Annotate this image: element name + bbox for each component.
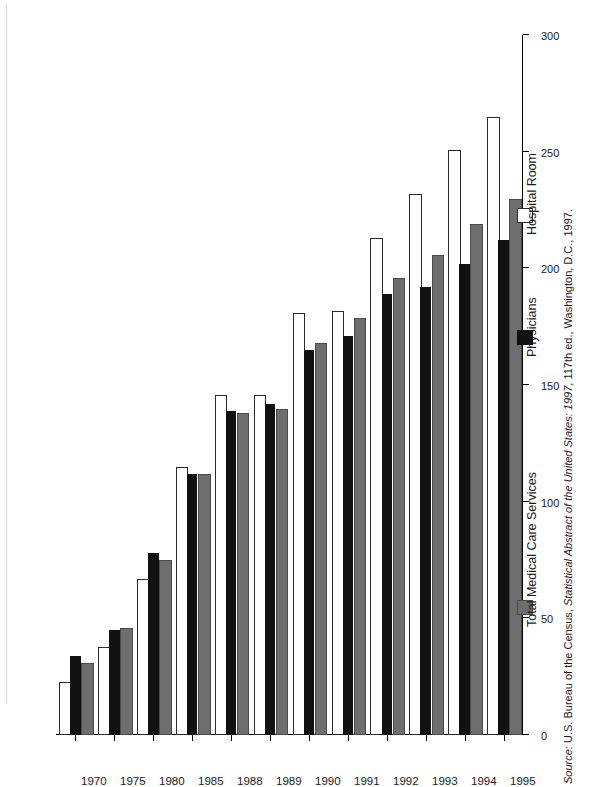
source-note: Source: U.S. Bureau of the Census, Stati… [562, 209, 574, 784]
axis-tick-label: 150 [541, 380, 559, 392]
category-tick [114, 735, 115, 741]
category-tick [465, 735, 466, 741]
bar-group [215, 35, 248, 735]
bar-group [332, 35, 365, 735]
bar-group [137, 35, 170, 735]
axis-tick-label: 50 [541, 613, 553, 625]
bar-1990-physicians [304, 350, 315, 735]
bar-1995-total-medical-care-services [509, 199, 522, 735]
plot-area: 0501001502002503001970197519801985198819… [56, 35, 523, 735]
bar-group [448, 35, 481, 735]
category-tick [75, 735, 76, 741]
bar-1980-total-medical-care-services [159, 560, 172, 735]
category-label-1995: 1995 [510, 775, 536, 787]
bar-group [98, 35, 131, 735]
bar-group [293, 35, 326, 735]
category-label-1988: 1988 [237, 775, 263, 787]
category-label-1992: 1992 [393, 775, 419, 787]
bar-chart: 0501001502002503001970197519801985198819… [35, 0, 555, 778]
axis-tick [523, 267, 529, 268]
axis-tick [523, 34, 529, 35]
category-tick [309, 735, 310, 741]
bar-1990-total-medical-care-services [315, 343, 328, 735]
category-label-1985: 1985 [198, 775, 224, 787]
category-tick [504, 735, 505, 741]
source-title: Statistical Abstract of the United State… [562, 386, 574, 606]
bar-1992-total-medical-care-services [393, 278, 406, 735]
category-tick [192, 735, 193, 741]
axis-tick [523, 384, 529, 385]
category-label-1980: 1980 [159, 775, 185, 787]
category-label-1989: 1989 [276, 775, 302, 787]
axis-tick-label: 100 [541, 497, 559, 509]
bar-group [370, 35, 403, 735]
bar-1989-total-medical-care-services [276, 409, 289, 735]
category-label-1970: 1970 [81, 775, 107, 787]
bar-group [487, 35, 520, 735]
category-label-1991: 1991 [354, 775, 380, 787]
bar-1970-total-medical-care-services [81, 663, 94, 735]
bar-group [409, 35, 442, 735]
source-text: U.S. Bureau of the Census, [562, 606, 574, 746]
category-tick [348, 735, 349, 741]
axis-tick [523, 734, 529, 735]
axis-tick-label: 0 [541, 730, 547, 742]
bar-1988-total-medical-care-services [237, 413, 250, 735]
bar-1988-physicians [226, 411, 237, 735]
bar-group [59, 35, 92, 735]
bar-1994-physicians [459, 264, 470, 735]
category-tick [231, 735, 232, 741]
source-prefix: Source: [562, 746, 574, 784]
category-label-1994: 1994 [471, 775, 497, 787]
bar-1994-total-medical-care-services [470, 224, 483, 735]
axis-tick-label: 300 [541, 30, 559, 42]
bar-1991-physicians [343, 336, 354, 735]
bar-1995-physicians [498, 240, 509, 735]
axis-tick [523, 151, 529, 152]
bar-1992-physicians [382, 294, 393, 735]
axis-tick-label: 250 [541, 147, 559, 159]
bar-group [254, 35, 287, 735]
bar-1985-total-medical-care-services [198, 474, 211, 735]
category-label-1993: 1993 [432, 775, 458, 787]
bar-1975-total-medical-care-services [120, 628, 133, 735]
bar-1985-physicians [187, 474, 198, 735]
category-label-1975: 1975 [120, 775, 146, 787]
bar-1989-physicians [265, 404, 276, 735]
bar-group [176, 35, 209, 735]
bar-1970-physicians [70, 656, 81, 735]
category-tick [153, 735, 154, 741]
bar-1980-physicians [148, 553, 159, 735]
category-axis [522, 35, 523, 735]
source-suffix: , 117th ed., Washington, D.C., 1997. [562, 209, 574, 386]
bar-1993-total-medical-care-services [432, 255, 445, 735]
category-tick [387, 735, 388, 741]
category-tick [270, 735, 271, 741]
bar-1991-total-medical-care-services [354, 318, 367, 735]
category-tick [426, 735, 427, 741]
category-label-1990: 1990 [315, 775, 341, 787]
legend-label-physicians: Physicians [525, 297, 539, 357]
bar-1975-physicians [109, 630, 120, 735]
legend-label-hospital-room: Hospital Room [525, 153, 539, 235]
bar-1993-physicians [420, 287, 431, 735]
legend-label-total-medical-care-services: Total Medical Care Services [525, 472, 539, 627]
axis-tick-label: 200 [541, 263, 559, 275]
